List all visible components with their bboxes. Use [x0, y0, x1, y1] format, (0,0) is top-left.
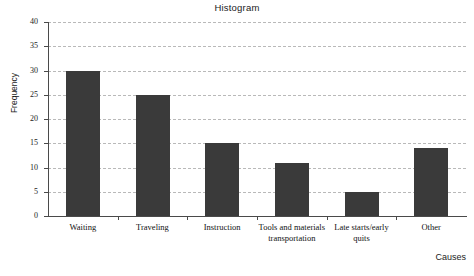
x-axis-title: Causes: [435, 252, 466, 262]
bar: [275, 163, 309, 216]
x-axis-category-label: Other: [396, 222, 466, 233]
x-axis-tick: [396, 216, 397, 220]
y-axis-tick: [44, 192, 48, 193]
y-axis-tick-label: 5: [12, 187, 38, 196]
y-axis-tick: [44, 46, 48, 47]
y-axis-tick: [44, 168, 48, 169]
bar: [66, 71, 100, 217]
x-axis-category-label: Late starts/early quits: [327, 222, 397, 243]
bar: [136, 95, 170, 216]
y-axis-tick: [44, 143, 48, 144]
histogram-chart: Histogram Frequency Causes 0510152025303…: [0, 0, 474, 276]
y-axis-tick-label: 20: [12, 114, 38, 123]
y-axis-tick-label: 0: [12, 211, 38, 220]
bar: [345, 192, 379, 216]
y-axis-tick-label: 30: [12, 66, 38, 75]
chart-title: Histogram: [0, 2, 474, 13]
y-axis-tick: [44, 71, 48, 72]
y-axis-tick: [44, 216, 48, 217]
x-axis-tick: [118, 216, 119, 220]
y-axis-tick-label: 35: [12, 41, 38, 50]
bars-layer: [48, 22, 466, 216]
bar: [414, 148, 448, 216]
x-axis-category-label: Tools and materials transportation: [257, 222, 327, 243]
x-axis-tick: [327, 216, 328, 220]
y-axis-tick-label: 40: [12, 17, 38, 26]
x-axis-category-label: Waiting: [48, 222, 118, 233]
y-axis-tick: [44, 95, 48, 96]
x-axis-category-label: Traveling: [118, 222, 188, 233]
bar: [205, 143, 239, 216]
y-axis-tick-label: 25: [12, 90, 38, 99]
x-axis-category-label: Instruction: [187, 222, 257, 233]
y-axis-tick: [44, 119, 48, 120]
y-axis-tick-label: 15: [12, 138, 38, 147]
x-axis-tick: [257, 216, 258, 220]
x-axis-tick: [187, 216, 188, 220]
y-axis-tick: [44, 22, 48, 23]
y-axis-tick-label: 10: [12, 163, 38, 172]
